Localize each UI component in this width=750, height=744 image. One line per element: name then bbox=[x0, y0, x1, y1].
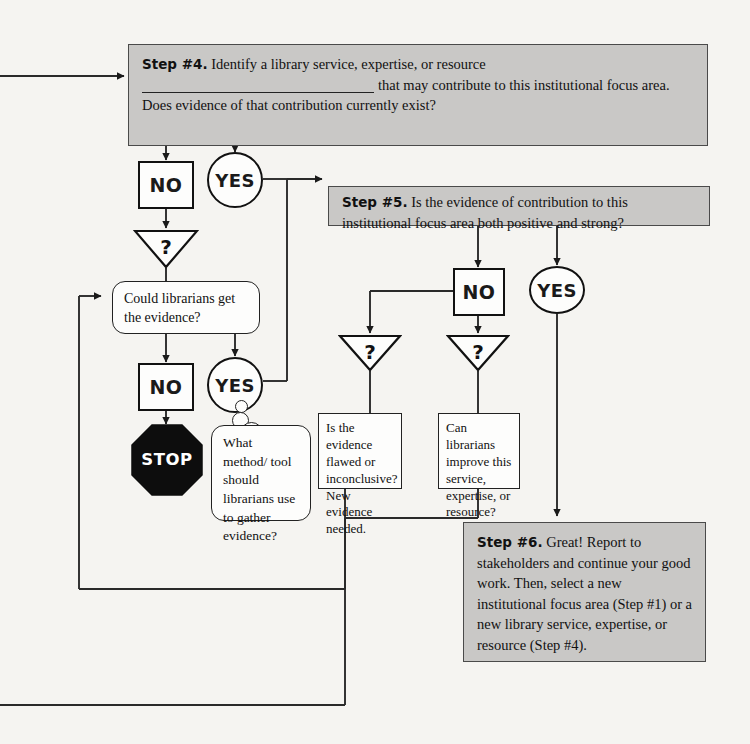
step4-box: Step #4. Identify a library service, exp… bbox=[128, 44, 708, 146]
what-method-bubble: What method/ tool should librarians use … bbox=[211, 425, 311, 521]
step5-label: Step #5. bbox=[342, 194, 408, 210]
decision-no-could-librarians[interactable]: NO bbox=[138, 363, 194, 411]
decision-yes-step5[interactable]: YES bbox=[529, 266, 585, 314]
can-librarians-improve-box: Can librarians improve this service, exp… bbox=[438, 413, 520, 489]
yes-label: YES bbox=[215, 170, 255, 191]
question-mark-label: ? bbox=[338, 340, 402, 364]
step6-label: Step #6. bbox=[477, 534, 543, 550]
yes-label: YES bbox=[537, 280, 577, 301]
question-triangle-3: ? bbox=[446, 334, 510, 372]
question-triangle-2: ? bbox=[338, 334, 402, 372]
is-evidence-flawed-box: Is the evidence flawed or inconclusive? … bbox=[318, 413, 402, 489]
no-label: NO bbox=[150, 376, 183, 398]
step6-text: Great! Report to stakeholders and contin… bbox=[477, 534, 692, 653]
what-method-text: What method/ tool should librarians use … bbox=[223, 435, 295, 543]
could-librarians-text: Could librarians get the evidence? bbox=[124, 291, 235, 325]
yes-label: YES bbox=[215, 375, 255, 396]
stop-sign: STOP bbox=[131, 424, 203, 496]
question-mark-label: ? bbox=[133, 235, 199, 259]
is-evidence-flawed-text: Is the evidence flawed or inconclusive? … bbox=[326, 420, 397, 536]
step6-box: Step #6. Great! Report to stakeholders a… bbox=[463, 522, 706, 662]
decision-no-step4[interactable]: NO bbox=[138, 161, 194, 209]
can-librarians-improve-text: Can librarians improve this service, exp… bbox=[446, 420, 511, 519]
no-label: NO bbox=[463, 281, 496, 303]
step5-box: Step #5. Is the evidence of contribution… bbox=[328, 186, 710, 226]
question-mark-label: ? bbox=[446, 340, 510, 364]
thought-bubble-dot-small bbox=[235, 400, 248, 413]
step4-text-after-blank: that may contribute to this institutiona… bbox=[142, 77, 670, 114]
step4-label: Step #4. bbox=[142, 56, 208, 72]
no-label: NO bbox=[150, 174, 183, 196]
flowchart-canvas: Step #4. Identify a library service, exp… bbox=[0, 0, 750, 744]
stop-label: STOP bbox=[131, 450, 203, 469]
step4-text-before-blank: Identify a library service, expertise, o… bbox=[211, 56, 486, 72]
could-librarians-box: Could librarians get the evidence? bbox=[112, 281, 260, 334]
step4-fill-in-blank[interactable] bbox=[142, 92, 374, 93]
decision-yes-step4[interactable]: YES bbox=[207, 152, 263, 208]
decision-no-step5[interactable]: NO bbox=[453, 268, 505, 316]
question-triangle-1: ? bbox=[133, 229, 199, 269]
